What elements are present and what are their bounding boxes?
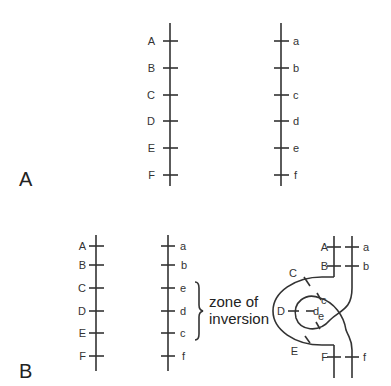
gene-label: D	[78, 305, 86, 317]
gene-label: f	[182, 350, 186, 362]
panel-a: A B C D E F a b c d e f A	[19, 23, 300, 190]
gene-label: e	[293, 142, 299, 154]
gene-label: F	[79, 350, 86, 362]
inversion-diagram: A B C D E F a b c d e f A	[0, 0, 391, 386]
gene-label: f	[363, 351, 367, 363]
brace	[195, 282, 203, 340]
gene-label: B	[148, 62, 155, 74]
gene-label: d	[293, 115, 299, 127]
gene-label: a	[363, 241, 370, 253]
panel-label-a: A	[19, 168, 33, 190]
gene-label: c	[321, 294, 327, 306]
gene-label: A	[79, 240, 87, 252]
gene-label: D	[277, 305, 285, 317]
panel-label-b: B	[19, 360, 32, 382]
gene-label: a	[180, 240, 187, 252]
zone-label-line2: inversion	[209, 310, 269, 327]
gene-label: E	[148, 142, 155, 154]
gene-label: E	[291, 345, 298, 357]
inversion-loop: A B C D E F c d e a b f	[273, 236, 370, 378]
gene-label: A	[148, 35, 156, 47]
zone-label-line1: zone of	[209, 293, 259, 310]
gene-label: B	[79, 259, 86, 271]
panel-b: A B C D E F a b e d c f zone of inversio…	[19, 235, 370, 382]
gene-label: C	[289, 267, 297, 279]
gene-label: c	[293, 89, 299, 101]
gene-label: b	[363, 260, 369, 272]
gene-label: d	[180, 305, 186, 317]
gene-label: F	[321, 351, 328, 363]
gene-label: C	[147, 89, 155, 101]
gene-label: f	[294, 169, 298, 181]
gene-label: D	[147, 115, 155, 127]
gene-label: e	[318, 310, 324, 322]
gene-label: b	[293, 62, 299, 74]
gene-label: A	[321, 241, 329, 253]
gene-label: C	[78, 282, 86, 294]
gene-label: b	[181, 259, 187, 271]
gene-label: c	[180, 327, 186, 339]
gene-label: e	[180, 282, 186, 294]
gene-label: a	[293, 35, 300, 47]
gene-label: B	[321, 260, 328, 272]
gene-label: E	[79, 327, 86, 339]
gene-label: F	[148, 169, 155, 181]
